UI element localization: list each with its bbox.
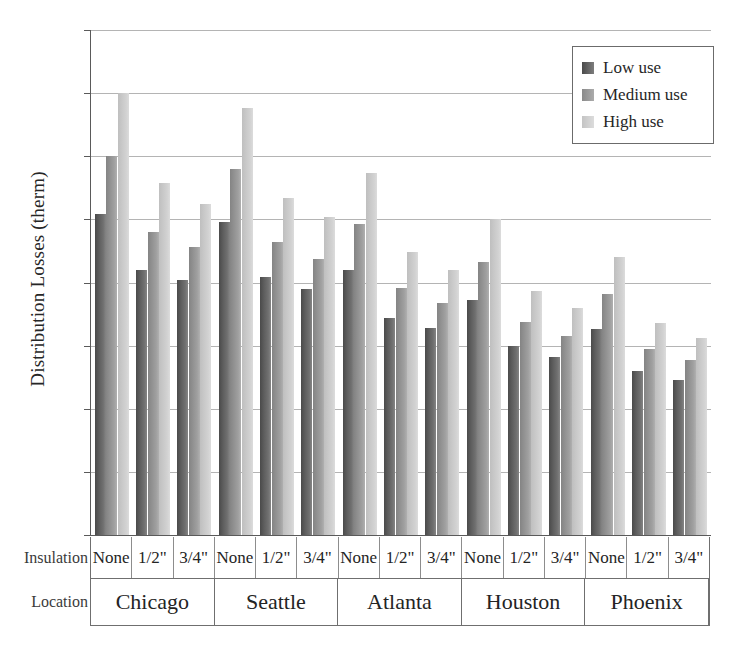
insulation-cell-houston-0: None <box>462 537 503 578</box>
insulation-cell-atlanta-1: 1/2" <box>380 537 421 578</box>
insulation-cell-chicago-1: 1/2" <box>132 537 173 578</box>
gridline-0 <box>91 535 711 536</box>
location-row: ChicagoSeattleAtlantaHoustonPhoenix <box>91 578 709 625</box>
bar-seattle-3-4--medium <box>313 259 324 535</box>
bar-seattle-3-4--high <box>324 217 335 535</box>
bar-atlanta-1-2--high <box>407 252 418 535</box>
legend-swatch-low-use-icon <box>582 62 594 74</box>
bar-houston-1-2--high <box>531 291 542 535</box>
gridline-40 <box>91 30 711 31</box>
insulation-cell-phoenix-2: 3/4" <box>669 537 709 578</box>
bar-atlanta-none-low <box>343 270 354 535</box>
insulation-row: None1/2"3/4"None1/2"3/4"None1/2"3/4"None… <box>91 537 709 578</box>
bar-chicago-none-high <box>118 93 129 535</box>
legend-item-medium-use: Medium use <box>582 81 704 108</box>
bar-seattle-none-medium <box>230 169 241 535</box>
bar-houston-none-high <box>490 219 501 535</box>
bar-phoenix-1-2--medium <box>644 349 655 535</box>
bar-chicago-1-2--medium <box>148 232 159 535</box>
category-axis-table: None1/2"3/4"None1/2"3/4"None1/2"3/4"None… <box>90 537 710 626</box>
bar-atlanta-3-4--high <box>448 270 459 535</box>
bar-seattle-none-high <box>242 108 253 535</box>
bar-houston-3-4--low <box>549 357 560 535</box>
insulation-cell-houston-1: 1/2" <box>504 537 545 578</box>
chart-figure: Distribution Losses (therm) 051015202530… <box>0 0 743 665</box>
legend-label-low-use: Low use <box>603 58 661 78</box>
row-header-insulation: Insulation <box>0 549 88 567</box>
location-cell-atlanta: Atlanta <box>338 579 462 625</box>
bar-seattle-3-4--low <box>301 289 312 535</box>
bar-chicago-3-4--medium <box>189 247 200 535</box>
legend-swatch-medium-use-icon <box>582 89 594 101</box>
bar-phoenix-none-high <box>614 257 625 535</box>
bar-seattle-1-2--low <box>260 277 271 535</box>
y-tick-mark-0 <box>84 535 91 536</box>
y-tick-mark-20 <box>84 283 91 284</box>
bar-houston-1-2--medium <box>520 322 531 535</box>
bar-phoenix-3-4--low <box>673 380 684 535</box>
bar-atlanta-1-2--low <box>384 318 395 535</box>
bar-phoenix-1-2--low <box>632 371 643 535</box>
row-header-location: Location <box>0 593 88 611</box>
bar-houston-1-2--low <box>508 346 519 535</box>
bar-chicago-none-medium <box>106 156 117 535</box>
bar-houston-3-4--high <box>572 308 583 535</box>
gridline-30 <box>91 156 711 157</box>
bar-atlanta-3-4--low <box>425 328 436 535</box>
insulation-cell-seattle-0: None <box>215 537 256 578</box>
y-tick-mark-5 <box>84 472 91 473</box>
bar-chicago-3-4--high <box>200 204 211 535</box>
bar-phoenix-3-4--medium <box>685 360 696 535</box>
bar-chicago-1-2--high <box>159 183 170 535</box>
insulation-cell-seattle-2: 3/4" <box>297 537 338 578</box>
location-cell-chicago: Chicago <box>91 579 215 625</box>
y-tick-mark-30 <box>84 156 91 157</box>
insulation-cell-houston-2: 3/4" <box>545 537 586 578</box>
y-tick-mark-40 <box>84 30 91 31</box>
bar-houston-none-low <box>467 300 478 535</box>
bar-atlanta-none-medium <box>354 224 365 535</box>
y-tick-mark-10 <box>84 409 91 410</box>
bar-seattle-1-2--high <box>283 198 294 535</box>
insulation-cell-atlanta-0: None <box>339 537 380 578</box>
bar-phoenix-3-4--high <box>696 338 707 535</box>
bar-atlanta-none-high <box>366 173 377 535</box>
bar-seattle-none-low <box>219 222 230 535</box>
insulation-cell-chicago-2: 3/4" <box>174 537 215 578</box>
y-tick-mark-15 <box>84 346 91 347</box>
location-cell-seattle: Seattle <box>215 579 339 625</box>
bar-chicago-1-2--low <box>136 270 147 535</box>
insulation-cell-chicago-0: None <box>91 537 132 578</box>
legend-item-low-use: Low use <box>582 54 704 81</box>
bar-houston-none-medium <box>478 262 489 535</box>
bar-phoenix-1-2--high <box>655 323 666 535</box>
insulation-cell-phoenix-1: 1/2" <box>627 537 668 578</box>
legend-swatch-high-use-icon <box>582 116 594 128</box>
chart-legend: Low use Medium use High use <box>572 46 714 144</box>
location-cell-houston: Houston <box>462 579 586 625</box>
y-tick-mark-35 <box>84 93 91 94</box>
bar-atlanta-1-2--medium <box>396 288 407 535</box>
gridline-25 <box>91 219 711 220</box>
y-tick-mark-25 <box>84 219 91 220</box>
bar-phoenix-none-medium <box>602 294 613 535</box>
bar-phoenix-none-low <box>591 329 602 535</box>
bar-chicago-none-low <box>95 214 106 535</box>
legend-item-high-use: High use <box>582 108 704 135</box>
insulation-cell-seattle-1: 1/2" <box>256 537 297 578</box>
location-cell-phoenix: Phoenix <box>585 579 709 625</box>
legend-label-high-use: High use <box>603 112 664 132</box>
bar-houston-3-4--medium <box>561 336 572 535</box>
y-axis-title: Distribution Losses (therm) <box>27 19 49 539</box>
legend-label-medium-use: Medium use <box>603 85 688 105</box>
bar-atlanta-3-4--medium <box>437 303 448 535</box>
bar-chicago-3-4--low <box>177 280 188 535</box>
insulation-cell-phoenix-0: None <box>586 537 627 578</box>
insulation-cell-atlanta-2: 3/4" <box>421 537 462 578</box>
bar-seattle-1-2--medium <box>272 242 283 535</box>
